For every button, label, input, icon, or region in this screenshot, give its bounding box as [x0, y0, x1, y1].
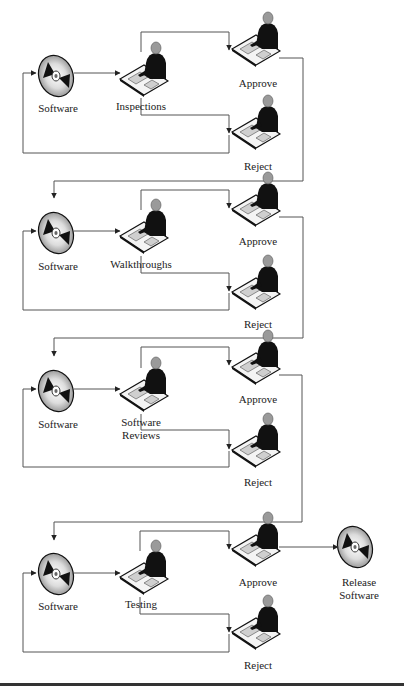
- stage-4-input-label: Software: [38, 600, 78, 613]
- stage-2-approve-label: Approve: [239, 235, 278, 248]
- stage-2-reject-label: Reject: [244, 318, 272, 331]
- software-disc-icon: [33, 207, 79, 258]
- inspector-icon: [120, 42, 168, 97]
- stage-1-process-label: Inspections: [116, 100, 166, 113]
- stage-2-process-label: Walkthroughs: [110, 258, 171, 271]
- stage-4-approve-label: Approve: [239, 576, 278, 589]
- software-disc-icon: [33, 365, 79, 416]
- rejecter-icon: [232, 95, 280, 150]
- stage-1-input-label: Software: [38, 102, 78, 115]
- release-software-label: Release Software: [339, 576, 379, 602]
- software-disc-icon: [33, 50, 79, 101]
- rejecter-icon: [232, 413, 280, 468]
- tester-icon: [120, 540, 168, 595]
- stage-1-approve-label: Approve: [239, 77, 278, 90]
- software-disc-icon: [33, 548, 79, 599]
- approver-icon: [232, 172, 280, 227]
- stage-2-input-label: Software: [38, 260, 78, 273]
- rejecter-icon: [232, 255, 280, 310]
- stage-4-process-label: Testing: [125, 598, 157, 611]
- stage-software-reviews: [23, 330, 302, 540]
- stage-3-reject-label: Reject: [244, 476, 272, 489]
- approver-icon: [232, 12, 280, 67]
- stage-3-approve-label: Approve: [239, 393, 278, 406]
- stage-3-process-label: Software Reviews: [121, 416, 161, 442]
- stage-3-input-label: Software: [38, 418, 78, 431]
- stage-1-reject-label: Reject: [244, 160, 272, 173]
- figure-bottom-rule: [0, 683, 404, 686]
- stage-4-reject-label: Reject: [244, 659, 272, 672]
- reviewer-icon: [120, 357, 168, 412]
- reviewer-icon: [120, 199, 168, 254]
- approver-icon: [232, 512, 280, 567]
- release-software-disc-icon: [332, 521, 378, 572]
- stage-testing: [23, 512, 378, 652]
- rejecter-icon: [232, 595, 280, 650]
